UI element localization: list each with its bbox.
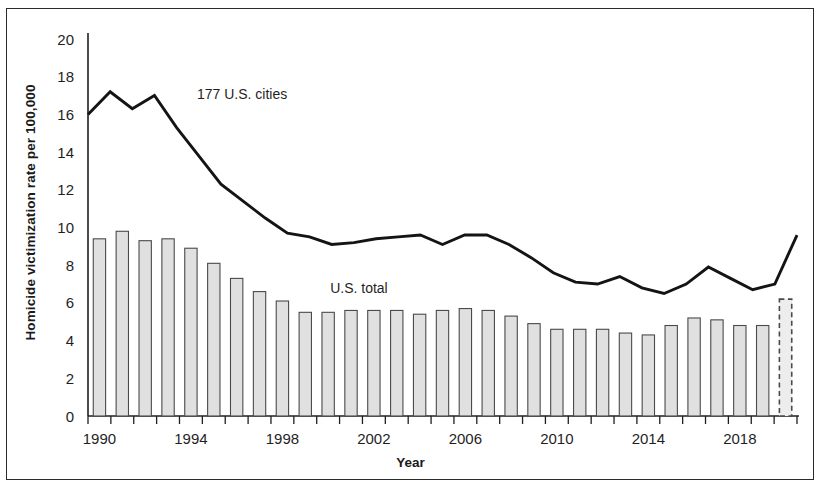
bar bbox=[322, 312, 334, 416]
y-axis-tick-label: 16 bbox=[57, 106, 74, 123]
bar bbox=[413, 314, 425, 416]
y-axis-tick-label: 6 bbox=[66, 294, 74, 311]
x-axis-tick-label: 1994 bbox=[174, 430, 207, 447]
bar bbox=[391, 310, 403, 416]
bar bbox=[482, 310, 494, 416]
y-axis-tick-label: 12 bbox=[57, 181, 74, 198]
bar bbox=[574, 329, 586, 416]
bar bbox=[299, 312, 311, 416]
bar bbox=[505, 316, 517, 416]
bar bbox=[276, 301, 288, 416]
bar bbox=[619, 333, 631, 416]
x-axis-tick-label: 2006 bbox=[449, 430, 482, 447]
bar bbox=[459, 309, 471, 416]
annotation-us-total: U.S. total bbox=[330, 280, 388, 296]
bar bbox=[116, 231, 128, 416]
chart-plot-area: 02468101214161820 1990199419982002200620… bbox=[0, 0, 821, 500]
bar bbox=[162, 239, 174, 416]
x-axis-tick-label: 2010 bbox=[540, 430, 573, 447]
x-axis-tick-label: 1998 bbox=[266, 430, 299, 447]
chart-figure: Homicide victimization rate per 100,000 … bbox=[0, 0, 821, 500]
bar bbox=[185, 248, 197, 416]
bar bbox=[734, 326, 746, 416]
x-axis-tick-label: 2018 bbox=[723, 430, 756, 447]
bar bbox=[596, 329, 608, 416]
bar bbox=[528, 324, 540, 416]
bar bbox=[642, 335, 654, 416]
y-axis-tick-label: 14 bbox=[57, 144, 74, 161]
bar bbox=[757, 326, 769, 416]
bar bbox=[665, 326, 677, 416]
bar bbox=[711, 320, 723, 416]
x-axis-tick-marks bbox=[88, 416, 797, 424]
y-axis-tick-label: 4 bbox=[66, 332, 74, 349]
y-axis-tick-label: 18 bbox=[57, 68, 74, 85]
x-axis-tick-label: 2014 bbox=[632, 430, 665, 447]
bar bbox=[779, 299, 791, 416]
y-axis-tick-label: 2 bbox=[66, 370, 74, 387]
y-axis-tick-label: 8 bbox=[66, 257, 74, 274]
bar bbox=[688, 318, 700, 416]
bar bbox=[230, 278, 242, 416]
bar bbox=[436, 310, 448, 416]
y-axis-tick-labels: 02468101214161820 bbox=[57, 31, 74, 425]
bar bbox=[345, 310, 357, 416]
y-axis-tick-label: 10 bbox=[57, 219, 74, 236]
x-axis-tick-label: 1990 bbox=[83, 430, 116, 447]
y-axis-tick-label: 0 bbox=[66, 408, 74, 425]
bar bbox=[93, 239, 105, 416]
bar bbox=[368, 310, 380, 416]
bar bbox=[208, 263, 220, 416]
y-axis-tick-label: 20 bbox=[57, 31, 74, 48]
annotation-177-us-cities: 177 U.S. cities bbox=[197, 86, 287, 102]
x-axis-tick-label: 2002 bbox=[357, 430, 390, 447]
bar bbox=[551, 329, 563, 416]
x-axis-tick-labels: 19901994199820022006201020142018 bbox=[83, 430, 757, 447]
bar bbox=[253, 292, 265, 416]
bar bbox=[139, 241, 151, 416]
bar-series-us-total bbox=[93, 231, 791, 416]
